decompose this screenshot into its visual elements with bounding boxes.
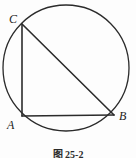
figure-caption: 图 25-2 <box>0 149 136 158</box>
hypotenuse-cb-diameter <box>22 24 114 115</box>
geometry-figure: C A B 图 25-2 <box>0 0 136 158</box>
vertex-label-c: C <box>9 13 17 25</box>
vertex-label-a: A <box>7 119 14 131</box>
geometry-canvas <box>0 0 136 158</box>
side-ab-horizontal <box>22 115 114 116</box>
vertex-label-b: B <box>119 110 126 122</box>
